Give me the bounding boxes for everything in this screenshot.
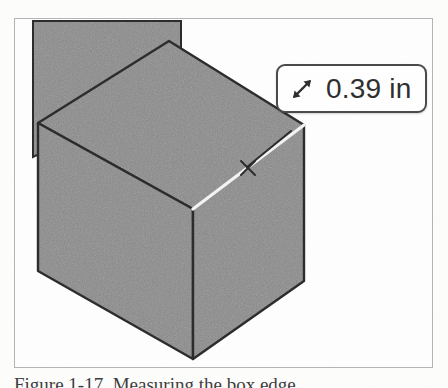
measurement-value-label: 0.39 in [326,75,411,103]
figure-caption: Figure 1-17. Measuring the box edge [14,374,434,388]
double-headed-diagonal-arrow-icon [289,76,315,102]
figure-frame: 0.39 in [14,18,433,368]
measurement-callout-badge[interactable]: 0.39 in [276,64,427,113]
